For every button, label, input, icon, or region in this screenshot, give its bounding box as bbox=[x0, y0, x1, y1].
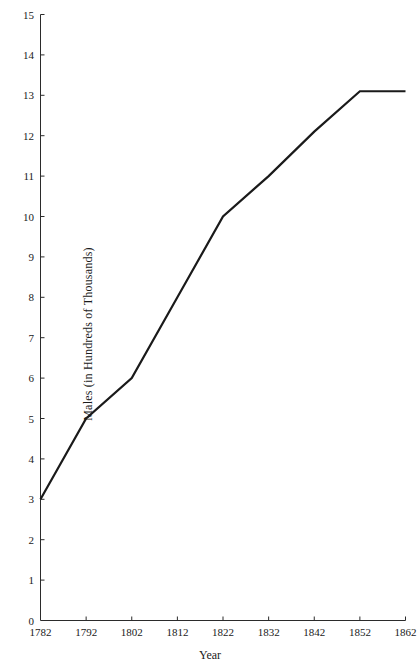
y-tick-label: 4 bbox=[8, 453, 34, 464]
y-tick-label: 3 bbox=[8, 494, 34, 505]
y-tick-label: 0 bbox=[8, 615, 34, 626]
y-axis-title: Males (in Hundreds of Thousands) bbox=[81, 247, 96, 421]
x-tick-label: 1812 bbox=[166, 627, 188, 638]
y-tick-label: 13 bbox=[8, 90, 34, 101]
line-chart: 0123456789101112131415 17821792180218121… bbox=[0, 0, 420, 667]
y-tick-label: 11 bbox=[8, 171, 34, 182]
y-tick-label: 5 bbox=[8, 413, 34, 424]
y-tick-label: 9 bbox=[8, 251, 34, 262]
y-tick-label: 14 bbox=[8, 49, 34, 60]
y-tick-label: 8 bbox=[8, 292, 34, 303]
x-tick-label: 1802 bbox=[121, 627, 143, 638]
y-tick-label: 7 bbox=[8, 332, 34, 343]
x-tick-label: 1822 bbox=[212, 627, 234, 638]
y-tick-label: 1 bbox=[8, 575, 34, 586]
y-tick-label: 15 bbox=[8, 9, 34, 20]
x-tick-label: 1862 bbox=[395, 627, 417, 638]
x-tick-label: 1792 bbox=[75, 627, 97, 638]
plot-area bbox=[0, 0, 420, 667]
x-tick-label: 1832 bbox=[258, 627, 280, 638]
y-tick-label: 10 bbox=[8, 211, 34, 222]
x-tick-label: 1852 bbox=[349, 627, 371, 638]
x-axis-title: Year bbox=[0, 648, 420, 663]
x-tick-label: 1842 bbox=[303, 627, 325, 638]
y-tick-label: 2 bbox=[8, 534, 34, 545]
x-tick-label: 1782 bbox=[30, 627, 52, 638]
y-tick-label: 12 bbox=[8, 130, 34, 141]
y-tick-label: 6 bbox=[8, 373, 34, 384]
